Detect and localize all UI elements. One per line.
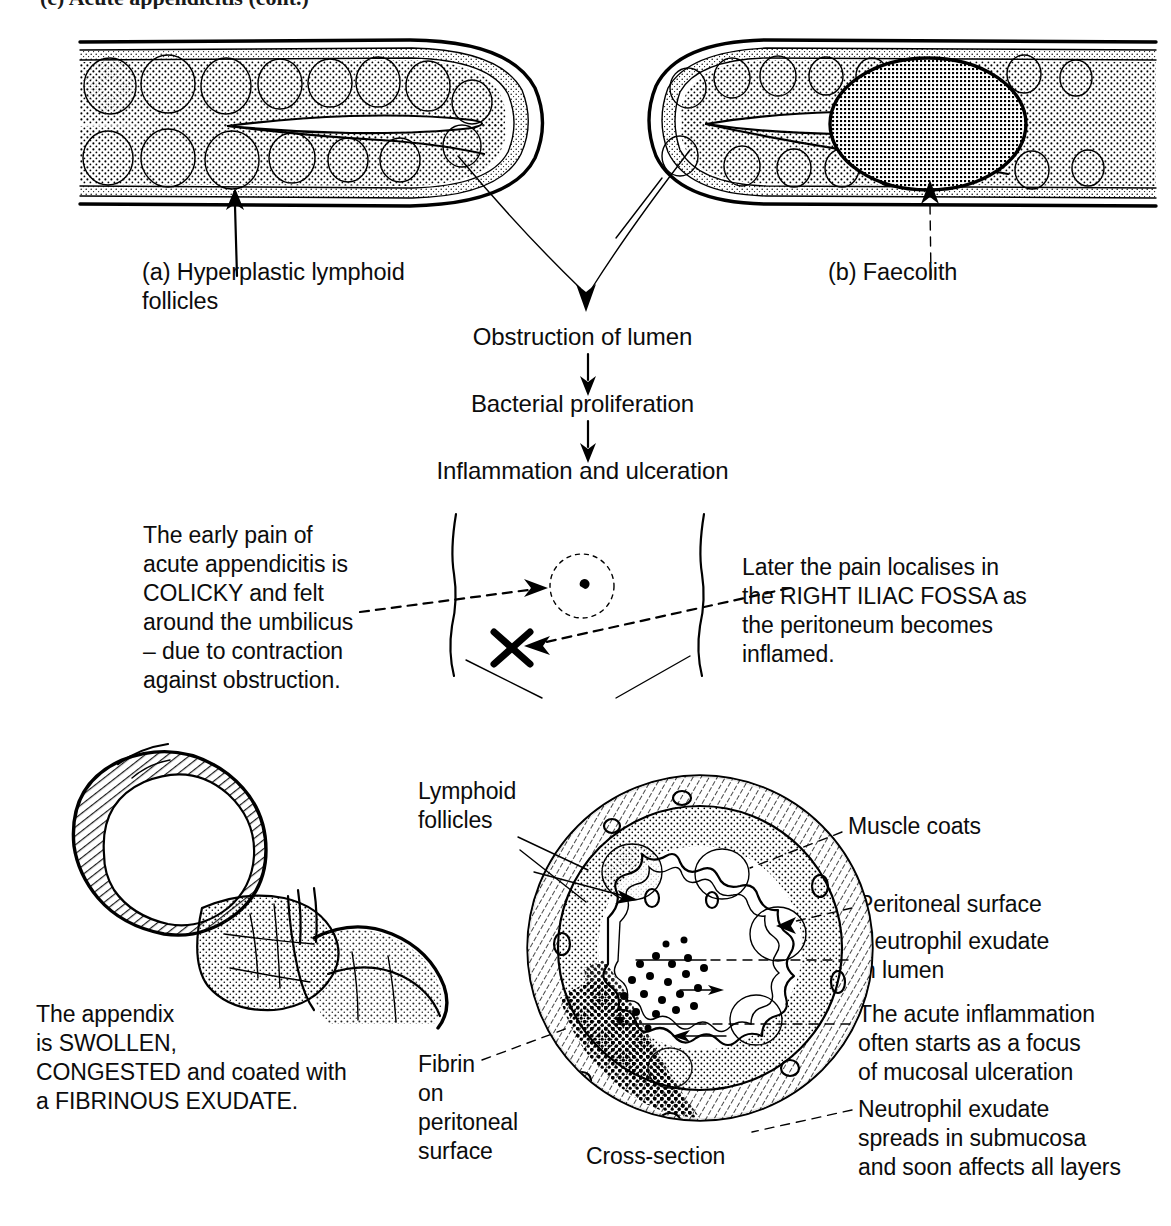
flow-step-2: Bacterial proliferation — [0, 389, 1168, 419]
gross-appendix-description: The appendix is SWOLLEN, CONGESTED and c… — [36, 1000, 436, 1116]
late-pain-description: Later the pain localises in the RIGHT IL… — [742, 553, 1072, 669]
caption-figure-b: (b) Faecolith — [828, 258, 1078, 287]
flow-step-3: Inflammation and ulceration — [0, 456, 1168, 486]
page-heading-clipped: (c) Acute appendicitis (cont.) — [40, 0, 460, 9]
abdomen-sketch — [420, 500, 730, 710]
converging-leader-lines — [440, 120, 740, 320]
cross-section-leader-lines — [400, 760, 1160, 1180]
page-heading-text: (c) Acute appendicitis (cont.) — [40, 0, 309, 9]
appendicitis-diagram-page: (c) Acute appendicitis (cont.) — [0, 0, 1171, 1226]
caption-figure-a: (a) Hyperplastic lymphoid follicles — [142, 258, 472, 316]
flow-step-1: Obstruction of lumen — [0, 322, 1168, 352]
rif-x-mark — [494, 632, 530, 664]
